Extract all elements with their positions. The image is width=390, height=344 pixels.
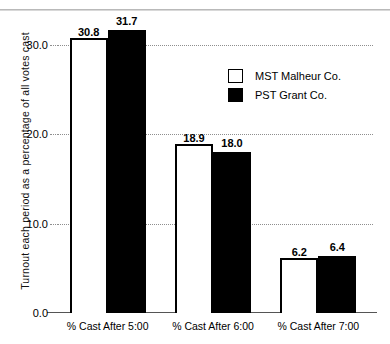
- bar-value-label: 31.7: [116, 15, 137, 27]
- bar: 18.9: [175, 144, 213, 313]
- bar-value-label: 6.4: [330, 241, 345, 253]
- legend-item-label: MST Malheur Co.: [255, 70, 341, 82]
- bar: 18.0: [213, 152, 251, 313]
- bar: 6.4: [318, 256, 356, 313]
- y-axis-tick-label: 0.0: [33, 307, 48, 319]
- legend-item: PST Grant Co.: [228, 85, 341, 104]
- x-axis-category-label: % Cast After 6:00: [172, 320, 254, 332]
- chart-legend: MST Malheur Co. PST Grant Co.: [228, 66, 341, 104]
- legend-item: MST Malheur Co.: [228, 66, 341, 85]
- y-axis-tick-label: 10.0: [27, 218, 48, 230]
- bar-value-label: 18.9: [183, 132, 204, 144]
- scan-artifact-line-secondary: [0, 10, 390, 11]
- x-axis-category-label: % Cast After 7:00: [277, 320, 359, 332]
- legend-swatch-icon: [228, 88, 243, 102]
- bar: 30.8: [70, 38, 108, 313]
- bar: 6.2: [280, 258, 318, 313]
- bar-value-label: 6.2: [292, 246, 307, 258]
- bar-chart: Turnout each period as a percentage of a…: [0, 0, 390, 344]
- y-axis-tick-mark: [50, 45, 56, 46]
- y-axis-tick-mark: [50, 134, 56, 135]
- x-axis-category-label: % Cast After 5:00: [67, 320, 149, 332]
- y-axis-tick-mark: [50, 224, 56, 225]
- legend-swatch-icon: [228, 69, 243, 83]
- bar: 31.7: [108, 30, 146, 313]
- legend-item-label: PST Grant Co.: [255, 89, 327, 101]
- bar-value-label: 18.0: [221, 137, 242, 149]
- bar-value-label: 30.8: [78, 26, 99, 38]
- y-axis-tick-label: 30.0: [27, 39, 48, 51]
- y-axis-tick-label: 20.0: [27, 128, 48, 140]
- plot-area: 0.010.020.030.030.831.7% Cast After 5:00…: [57, 14, 373, 313]
